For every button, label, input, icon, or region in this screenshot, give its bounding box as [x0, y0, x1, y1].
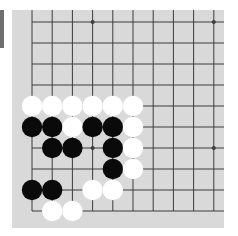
board-intersection[interactable]: [143, 117, 163, 137]
board-intersection[interactable]: [143, 180, 163, 200]
board-intersection[interactable]: [62, 180, 82, 200]
board-intersection[interactable]: [123, 33, 143, 53]
board-intersection[interactable]: [62, 75, 82, 95]
side-panel-tab[interactable]: [0, 10, 4, 48]
board-intersection[interactable]: [123, 12, 143, 32]
board-intersection[interactable]: [103, 12, 123, 32]
white-stone: [123, 117, 143, 137]
board-intersection[interactable]: [22, 75, 42, 95]
white-stone: [42, 96, 62, 116]
board-intersection[interactable]: [143, 12, 163, 32]
board-intersection[interactable]: [62, 33, 82, 53]
white-stone: [123, 138, 143, 158]
board-intersection[interactable]: [184, 180, 204, 200]
board-intersection[interactable]: [123, 54, 143, 74]
white-stone: [22, 96, 42, 116]
board-intersection[interactable]: [184, 33, 204, 53]
board-intersection[interactable]: [143, 159, 163, 179]
white-stone: [123, 96, 143, 116]
board-intersection[interactable]: [42, 75, 62, 95]
board-intersection[interactable]: [204, 33, 224, 53]
board-intersection[interactable]: [83, 75, 103, 95]
board-intersection[interactable]: [163, 96, 183, 116]
board-intersection[interactable]: [204, 138, 224, 158]
white-stone: [62, 117, 82, 137]
board-intersection[interactable]: [163, 33, 183, 53]
black-stone: [42, 138, 62, 158]
white-stone: [62, 96, 82, 116]
white-stone: [82, 96, 102, 116]
board-intersection[interactable]: [83, 12, 103, 32]
go-board[interactable]: [12, 10, 224, 228]
board-intersection[interactable]: [83, 201, 103, 221]
board-intersection[interactable]: [204, 201, 224, 221]
board-intersection[interactable]: [103, 54, 123, 74]
board-intersection[interactable]: [204, 159, 224, 179]
board-intersection[interactable]: [83, 138, 103, 158]
board-intersection[interactable]: [42, 54, 62, 74]
board-intersection[interactable]: [163, 12, 183, 32]
board-intersection[interactable]: [62, 54, 82, 74]
board-intersection[interactable]: [62, 12, 82, 32]
board-intersection[interactable]: [83, 54, 103, 74]
board-intersection[interactable]: [184, 75, 204, 95]
white-stone: [42, 201, 62, 221]
white-stone: [62, 201, 82, 221]
board-intersection[interactable]: [204, 75, 224, 95]
board-intersection[interactable]: [184, 96, 204, 116]
board-intersection[interactable]: [163, 75, 183, 95]
board-intersection[interactable]: [163, 138, 183, 158]
board-intersection[interactable]: [143, 138, 163, 158]
board-intersection[interactable]: [143, 75, 163, 95]
board-grid[interactable]: [12, 10, 224, 228]
board-intersection[interactable]: [184, 159, 204, 179]
board-intersection[interactable]: [163, 159, 183, 179]
board-intersection[interactable]: [163, 201, 183, 221]
board-intersection[interactable]: [103, 33, 123, 53]
board-intersection[interactable]: [163, 117, 183, 137]
board-intersection[interactable]: [184, 117, 204, 137]
board-intersection[interactable]: [22, 159, 42, 179]
black-stone: [62, 138, 82, 158]
black-stone: [22, 117, 42, 137]
board-intersection[interactable]: [123, 180, 143, 200]
board-intersection[interactable]: [103, 75, 123, 95]
black-stone: [82, 117, 102, 137]
board-intersection[interactable]: [83, 33, 103, 53]
white-stone: [103, 180, 123, 200]
board-intersection[interactable]: [143, 201, 163, 221]
board-intersection[interactable]: [83, 159, 103, 179]
board-intersection[interactable]: [204, 12, 224, 32]
board-intersection[interactable]: [163, 54, 183, 74]
board-intersection[interactable]: [103, 201, 123, 221]
board-intersection[interactable]: [22, 138, 42, 158]
board-intersection[interactable]: [62, 159, 82, 179]
board-intersection[interactable]: [143, 96, 163, 116]
board-intersection[interactable]: [123, 201, 143, 221]
board-intersection[interactable]: [204, 117, 224, 137]
black-stone: [103, 117, 123, 137]
board-intersection[interactable]: [204, 96, 224, 116]
board-intersection[interactable]: [22, 54, 42, 74]
board-intersection[interactable]: [143, 54, 163, 74]
board-intersection[interactable]: [143, 33, 163, 53]
board-intersection[interactable]: [163, 180, 183, 200]
black-stone: [103, 159, 123, 179]
board-intersection[interactable]: [42, 159, 62, 179]
white-stone: [123, 159, 143, 179]
board-intersection[interactable]: [42, 33, 62, 53]
board-intersection[interactable]: [184, 54, 204, 74]
board-intersection[interactable]: [204, 54, 224, 74]
board-intersection[interactable]: [184, 138, 204, 158]
board-intersection[interactable]: [42, 12, 62, 32]
white-stone: [82, 180, 102, 200]
board-intersection[interactable]: [22, 201, 42, 221]
board-intersection[interactable]: [22, 12, 42, 32]
board-intersection[interactable]: [204, 180, 224, 200]
board-intersection[interactable]: [123, 75, 143, 95]
board-intersection[interactable]: [184, 12, 204, 32]
board-intersection[interactable]: [184, 201, 204, 221]
board-intersection[interactable]: [22, 33, 42, 53]
black-stone: [103, 138, 123, 158]
black-stone: [22, 180, 42, 200]
